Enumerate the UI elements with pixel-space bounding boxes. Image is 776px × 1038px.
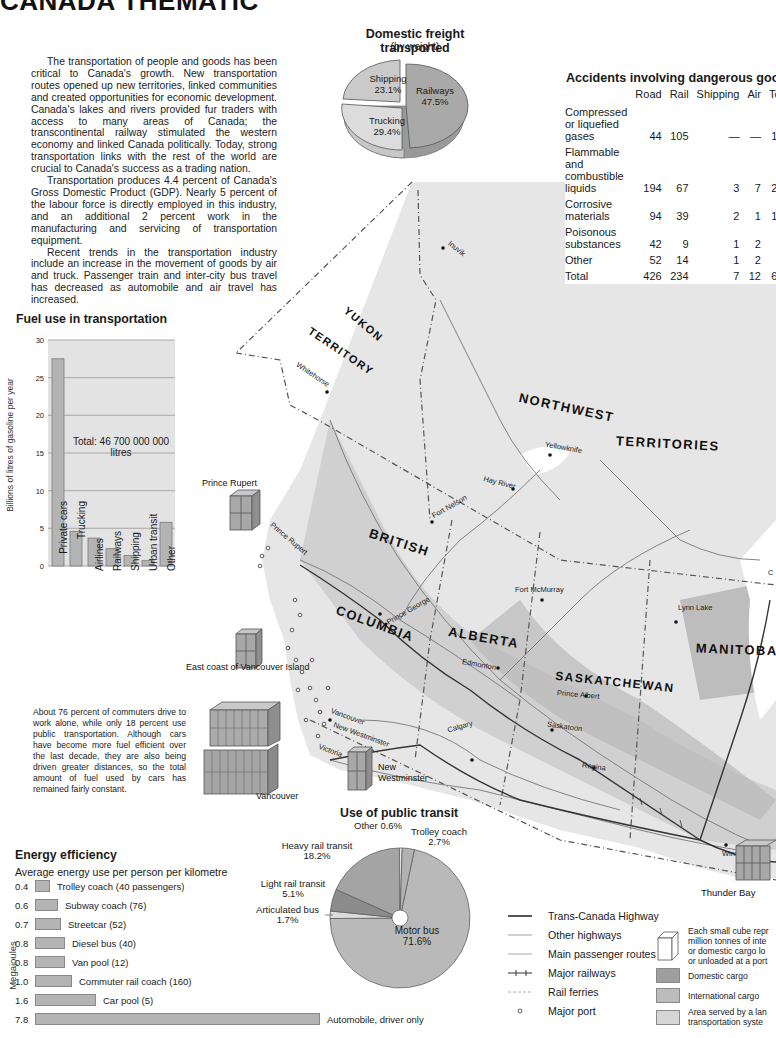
- col-total: Tot: [761, 88, 776, 104]
- transit-label-articulated: Articulated bus 1.7%: [250, 905, 325, 925]
- row-label: Corrosive materials: [565, 196, 627, 224]
- transit-label-trolley: Trolley coach 2.7%: [404, 827, 474, 847]
- port-label-east-coast-text: East coast of Vancouver Island: [186, 662, 309, 672]
- row-label: Flammable and combustible liquids: [565, 144, 627, 196]
- table-row: Poisonous substances 42 9 1 2 5: [565, 224, 776, 252]
- domestic-cargo-swatch: [656, 968, 680, 983]
- cell: 2: [739, 252, 760, 268]
- energy-label: Streetcar (52): [68, 919, 126, 930]
- energy-label: Car pool (5): [103, 995, 153, 1006]
- row-label: Total: [565, 268, 627, 284]
- port-label-thunder-bay: Thunder Bay: [701, 887, 755, 898]
- cell: 234: [662, 268, 689, 284]
- passenger-routes-icon: [508, 952, 532, 956]
- cell: —: [739, 104, 760, 144]
- cell: 5: [761, 224, 776, 252]
- served-area-text: Area served by a lan transportation syst…: [688, 1007, 767, 1027]
- cell: 1: [739, 196, 760, 224]
- xtick-airlines: Airlines: [94, 538, 105, 571]
- served-area-line: transportation syste: [688, 1017, 767, 1027]
- legend-item-international: International cargo: [656, 988, 759, 1003]
- energy-row: 1.6 Car pool (5): [15, 993, 153, 1007]
- cell: 42: [627, 224, 661, 252]
- energy-label: Commuter rail coach (160): [79, 976, 191, 987]
- cube-legend-line: million tonnes of inte: [688, 936, 769, 946]
- cell: 7: [739, 144, 760, 196]
- city-fort-mcmurray: Fort McMurray: [515, 585, 564, 594]
- transit-label-other: Other 0.6%: [354, 820, 402, 831]
- table-row-total: Total 426 234 7 12 67: [565, 268, 776, 284]
- legend-item: Trans-Canada Highway: [508, 908, 659, 924]
- major-port-icon: [508, 1008, 532, 1014]
- energy-row: 0.8 Diesel bus (40): [15, 936, 136, 950]
- accidents-table: Road Rail Shipping Air Tot Compressed or…: [565, 88, 776, 284]
- row-label: Poisonous substances: [565, 224, 627, 252]
- accidents-title: Accidents involving dangerous goods, 199: [566, 71, 776, 85]
- energy-row: 0.4 Trolley coach (40 passengers): [15, 879, 184, 893]
- cell: 67: [761, 268, 776, 284]
- freight-label-shipping: Shipping 23.1%: [358, 73, 418, 95]
- transit-heavy-rail-value: 18.2%: [272, 851, 362, 861]
- xtick-other: Other: [166, 546, 177, 571]
- cell: 9: [662, 224, 689, 252]
- cell: 7: [689, 268, 740, 284]
- cell: 13: [761, 196, 776, 224]
- legend-item: Major port: [508, 1003, 596, 1019]
- transit-other-value: 0.6%: [380, 820, 402, 831]
- accidents-header-row: Road Rail Shipping Air Tot: [565, 88, 776, 104]
- trans-canada-highway-icon: [508, 914, 532, 918]
- cell: 194: [627, 144, 661, 196]
- cube-icon: [656, 930, 680, 962]
- commuter-note: About 76 percent of commuters drive to w…: [33, 707, 186, 795]
- ytick-0: 0: [40, 562, 44, 571]
- energy-row: 0.6 Subway coach (76): [15, 898, 146, 912]
- cargo-cubes-new-westminster: [346, 746, 374, 792]
- energy-bar: [35, 937, 65, 949]
- table-row: Compressed or liquefied gases 44 105 — —…: [565, 104, 776, 144]
- table-row: Flammable and combustible liquids 194 67…: [565, 144, 776, 196]
- cargo-cubes-vancouver: [202, 700, 284, 800]
- energy-label: Automobile, driver only: [327, 1014, 424, 1025]
- energy-row: 7.8 Automobile, driver only: [15, 1012, 424, 1026]
- energy-bar: [35, 956, 65, 968]
- city-c: C: [768, 568, 773, 577]
- ytick-15: 15: [36, 449, 44, 458]
- energy-row: 0.8 Van pool (12): [15, 955, 128, 969]
- cell: 2: [739, 224, 760, 252]
- fuel-chart-title: Fuel use in transportation: [16, 312, 167, 326]
- cell: 1: [689, 224, 740, 252]
- col-rail: Rail: [662, 88, 689, 104]
- energy-bar: [35, 994, 96, 1006]
- col-road: Road: [627, 88, 661, 104]
- cargo-cubes-prince-rupert: [226, 488, 266, 536]
- energy-value: 0.6: [15, 900, 33, 911]
- legend-label: Rail ferries: [548, 986, 599, 998]
- cell: —: [689, 104, 740, 144]
- transit-motor-bus-value: 71.6%: [382, 936, 452, 947]
- energy-bar: [35, 918, 61, 930]
- energy-bar: [35, 880, 50, 892]
- cube-legend-text: Each small cube repr million tonnes of i…: [688, 926, 769, 966]
- energy-bar: [35, 899, 58, 911]
- cell: 52: [627, 252, 661, 268]
- transit-articulated-value: 1.7%: [250, 915, 325, 925]
- port-label-new-westminster: New Westminster: [378, 762, 438, 784]
- legend-label: Major port: [548, 1005, 596, 1017]
- transit-label-heavy-rail: Heavy rail transit 18.2%: [272, 841, 362, 861]
- cargo-cubes-thunder-bay: [734, 838, 776, 882]
- ytick-25: 25: [36, 374, 44, 383]
- cell: 67: [662, 144, 689, 196]
- cube-legend-line: Each small cube repr: [688, 926, 769, 936]
- cube-legend-line: or domestic cargo lo: [688, 946, 769, 956]
- legend-label: International cargo: [688, 991, 759, 1001]
- legend-item: Main passenger routes: [508, 946, 656, 962]
- other-highways-icon: [508, 933, 532, 937]
- energy-label: Trolley coach (40 passengers): [57, 881, 184, 892]
- freight-shipping-value: 23.1%: [358, 84, 418, 95]
- cell: 2: [689, 196, 740, 224]
- energy-label: Subway coach (76): [65, 900, 146, 911]
- cell: 94: [627, 196, 661, 224]
- xtick-private-cars: Private cars: [58, 501, 69, 571]
- cell: 426: [627, 268, 661, 284]
- cell: 6: [761, 252, 776, 268]
